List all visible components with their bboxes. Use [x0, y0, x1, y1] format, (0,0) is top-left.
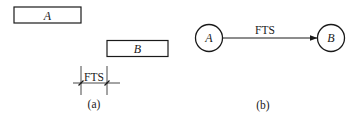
box-a-label: A	[43, 9, 52, 23]
fts-dimension: FTS	[73, 66, 120, 95]
figure-a: A B FTS (a)	[14, 7, 168, 111]
figure-b: A B FTS (b)	[196, 24, 345, 112]
box-b-label: B	[134, 42, 142, 56]
node-a-label: A	[204, 31, 213, 45]
caption-a: (a)	[88, 98, 101, 111]
activity-box-a: A	[14, 7, 81, 23]
caption-b: (b)	[256, 99, 270, 112]
activity-box-b: B	[107, 41, 168, 57]
edge-label: FTS	[255, 24, 275, 36]
node-b: B	[318, 25, 345, 52]
diagram-canvas: A B FTS (a) A B FTS (b)	[0, 0, 354, 123]
edge-a-to-b: FTS	[223, 24, 318, 38]
node-a: A	[196, 25, 223, 52]
dimension-label: FTS	[84, 71, 104, 83]
node-b-label: B	[327, 31, 335, 45]
